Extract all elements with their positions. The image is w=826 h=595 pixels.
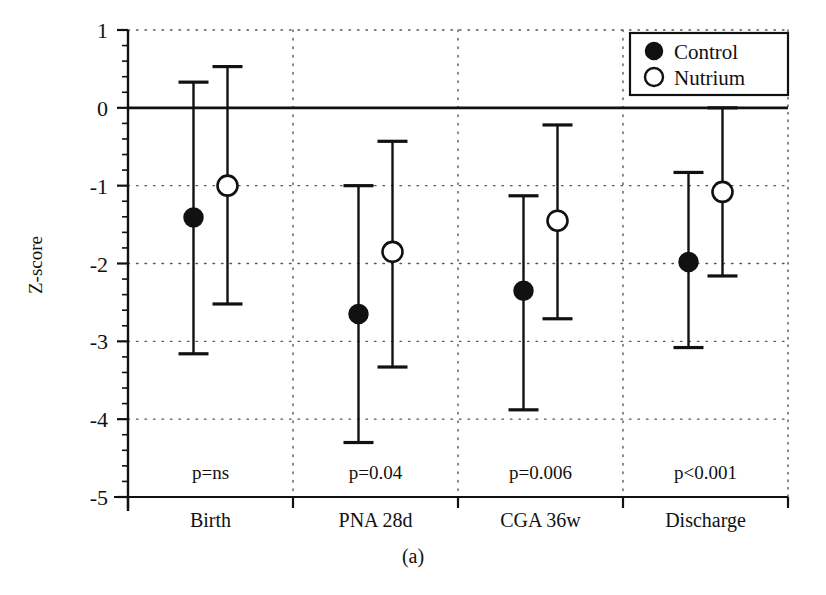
p-value-label: p<0.001: [674, 462, 737, 483]
filled-circle-marker-icon: [184, 208, 203, 227]
x-tick-label: CGA 36w: [500, 509, 581, 531]
z-score-errorbar-chart: 10-1-2-3-4-5 p=nsp=0.04p=0.006p<0.001 Bi…: [0, 0, 826, 595]
y-tick-label: -2: [90, 252, 108, 277]
filled-circle-marker-icon: [514, 281, 533, 300]
open-circle-marker-icon: [713, 182, 733, 202]
filled-circle-marker-icon: [679, 252, 698, 271]
legend-label: Nutrium: [674, 66, 745, 90]
open-circle-marker-icon: [548, 211, 568, 231]
x-tick-label: Birth: [190, 509, 231, 531]
y-tick-label: -5: [90, 485, 108, 510]
y-tick-label: -4: [90, 407, 108, 432]
legend-label: Control: [674, 40, 738, 64]
open-circle-marker-icon: [383, 242, 403, 262]
filled-circle-marker-icon: [349, 305, 368, 324]
legend: ControlNutrium: [630, 33, 788, 95]
p-value-label: p=0.006: [509, 462, 572, 483]
y-tick-label: 1: [97, 18, 108, 43]
y-tick-label: 0: [97, 96, 108, 121]
x-tick-label: Discharge: [665, 509, 746, 532]
y-tick-label: -3: [90, 329, 108, 354]
figure-caption: (a): [402, 545, 424, 568]
p-value-label: p=ns: [192, 462, 229, 483]
x-tick-label: PNA 28d: [339, 509, 413, 531]
figure-panel-a: 10-1-2-3-4-5 p=nsp=0.04p=0.006p<0.001 Bi…: [0, 0, 826, 595]
y-tick-label: -1: [90, 174, 108, 199]
open-circle-icon: [645, 68, 663, 86]
p-value-label: p=0.04: [349, 462, 403, 483]
y-axis-title: Z-score: [25, 236, 46, 294]
filled-circle-icon: [646, 43, 663, 60]
open-circle-marker-icon: [218, 176, 238, 196]
